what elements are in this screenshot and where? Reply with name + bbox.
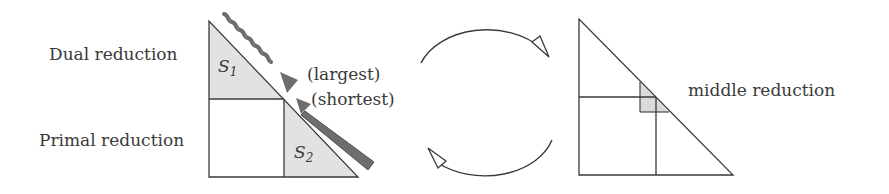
dual-reduction-label: Dual reduction — [49, 44, 178, 64]
cycle-arrows — [421, 30, 552, 176]
primal-reduction-label: Primal reduction — [39, 130, 184, 150]
shortest-annotation: (shortest) — [311, 89, 395, 109]
left-panel: Dual reduction Primal reduction S1 S2 (l… — [39, 14, 395, 177]
middle-reduction-label: middle reduction — [688, 80, 835, 100]
reduction-diagram: Dual reduction Primal reduction S1 S2 (l… — [0, 0, 889, 194]
largest-annotation: (largest) — [307, 64, 380, 84]
top-cycle-arrow-icon — [421, 30, 549, 63]
bottom-cycle-arrow-icon — [428, 140, 552, 176]
right-panel: middle reduction — [579, 19, 835, 175]
